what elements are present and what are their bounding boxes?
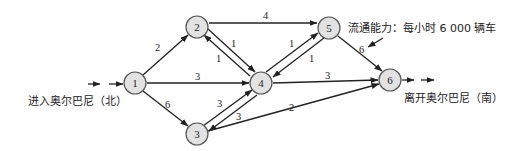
- edge-3-6: 2: [208, 84, 379, 131]
- edge-2-4: 1: [208, 29, 255, 72]
- exit-label: 离开奥尔巴尼（南）: [404, 89, 503, 105]
- edge-5-4: 1: [273, 38, 324, 77]
- node-3: 3: [186, 123, 208, 145]
- edge-1-2-capacity: 2: [155, 42, 160, 53]
- node-6: 6: [379, 69, 401, 91]
- edge-2-5-capacity: 4: [263, 10, 269, 21]
- capacity-note: 流通能力：每小时 6 000 辆车: [348, 19, 496, 35]
- edge-4-3-capacity: 3: [236, 111, 241, 122]
- edge-1-4-capacity: 3: [195, 71, 200, 82]
- svg-text:6: 6: [387, 74, 393, 86]
- svg-text:3: 3: [194, 128, 200, 140]
- edge-3-4-capacity: 3: [217, 98, 222, 109]
- edge-5-6-capacity: 6: [359, 44, 364, 55]
- edge-5-4-capacity: 1: [309, 53, 314, 64]
- edge-1-4: 3: [147, 71, 249, 83]
- node-2: 2: [186, 16, 208, 38]
- svg-text:1: 1: [132, 77, 138, 89]
- svg-text:4: 4: [258, 77, 264, 89]
- edge-4-6-capacity: 3: [325, 70, 330, 81]
- edge-2-4-capacity: 1: [231, 38, 236, 49]
- edge-4-2: 1: [204, 35, 250, 76]
- edge-1-2: 2: [143, 35, 188, 75]
- node-5: 5: [318, 17, 340, 39]
- edge-1-3: 6: [143, 91, 188, 126]
- edge-5-6: 6: [338, 36, 382, 71]
- edge-1-3-capacity: 6: [165, 99, 170, 110]
- edge-3-6-capacity: 2: [289, 102, 294, 113]
- edge-4-2-capacity: 1: [216, 53, 221, 64]
- entry-label: 进入奥尔巴尼（北）: [28, 92, 127, 108]
- svg-text:5: 5: [326, 22, 332, 34]
- node-4: 4: [250, 72, 272, 94]
- capacity-pointer-arrow-icon: [368, 38, 383, 47]
- edge-4-5-capacity: 1: [289, 38, 294, 49]
- edge-4-6: 3: [273, 70, 378, 83]
- svg-text:2: 2: [194, 21, 200, 33]
- node-1: 1: [124, 72, 146, 94]
- edge-2-5: 4: [209, 10, 317, 23]
